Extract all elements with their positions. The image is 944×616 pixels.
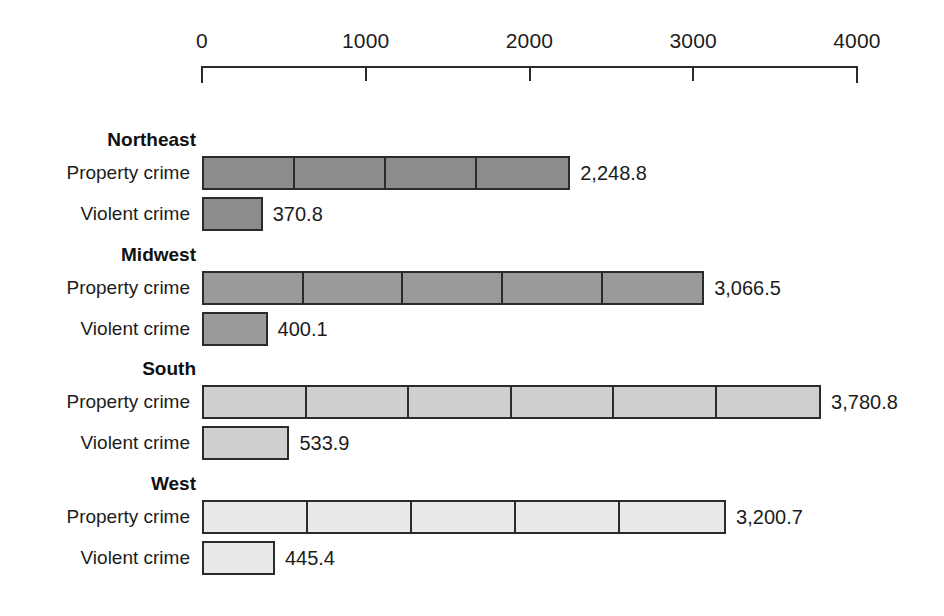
axis-tick-label-0: 0 — [196, 30, 208, 51]
bar-segment — [603, 273, 703, 303]
bar-segment — [308, 502, 412, 532]
bar-segment — [307, 387, 410, 417]
bar-row-label: Violent crime — [0, 312, 190, 346]
region-group-midwest: MidwestProperty crime3,066.5Violent crim… — [0, 244, 944, 349]
bar-value-label: 2,248.8 — [580, 156, 647, 190]
bar-segment — [620, 502, 724, 532]
crime-rate-bar-chart: 0 1000 2000 3000 4000 NortheastProperty … — [0, 0, 944, 616]
bar-segment — [204, 314, 266, 344]
region-title-west: West — [0, 473, 196, 495]
bar-segment — [204, 428, 287, 458]
region-title-midwest: Midwest — [0, 244, 196, 266]
bar-row-label: Property crime — [0, 385, 190, 419]
region-group-south: SouthProperty crime3,780.8Violent crime5… — [0, 358, 944, 463]
bar-segment — [204, 502, 308, 532]
bar-segment — [204, 387, 307, 417]
bar-segment — [204, 158, 295, 188]
bar-segment — [204, 273, 304, 303]
region-group-west: WestProperty crime3,200.7Violent crime44… — [0, 473, 944, 578]
bar-row: Violent crime400.1 — [0, 312, 944, 346]
axis-tick-1000 — [365, 66, 367, 81]
bar-south-violent[interactable] — [202, 426, 289, 460]
bar-midwest-property[interactable] — [202, 271, 704, 305]
bar-row: Violent crime445.4 — [0, 541, 944, 575]
bar-segment — [403, 273, 503, 303]
bar-west-violent[interactable] — [202, 541, 275, 575]
bar-row: Property crime3,200.7 — [0, 500, 944, 534]
bar-row: Property crime3,066.5 — [0, 271, 944, 305]
bar-value-label: 533.9 — [299, 426, 349, 460]
region-title-south: South — [0, 358, 196, 380]
bar-segment — [304, 273, 404, 303]
bar-segment — [204, 543, 273, 573]
axis-tick-4000 — [856, 66, 858, 83]
region-group-northeast: NortheastProperty crime2,248.8Violent cr… — [0, 129, 944, 234]
bar-row-label: Property crime — [0, 271, 190, 305]
bar-value-label: 445.4 — [285, 541, 335, 575]
axis-tick-label-1000: 1000 — [342, 30, 390, 51]
axis-tick-3000 — [692, 66, 694, 81]
bar-row-label: Violent crime — [0, 197, 190, 231]
bar-segment — [295, 158, 386, 188]
bar-row-label: Violent crime — [0, 426, 190, 460]
bar-row-label: Property crime — [0, 500, 190, 534]
axis-tick-label-4000: 4000 — [833, 30, 881, 51]
bar-value-label: 3,200.7 — [736, 500, 803, 534]
bar-northeast-property[interactable] — [202, 156, 570, 190]
chart-axis: 0 1000 2000 3000 4000 — [0, 0, 944, 90]
bar-segment — [516, 502, 620, 532]
axis-tick-2000 — [529, 66, 531, 81]
bar-row-label: Property crime — [0, 156, 190, 190]
bar-value-label: 3,066.5 — [714, 271, 781, 305]
bar-row-label: Violent crime — [0, 541, 190, 575]
bar-segment — [409, 387, 512, 417]
bar-south-property[interactable] — [202, 385, 821, 419]
bar-row: Property crime2,248.8 — [0, 156, 944, 190]
bar-row: Violent crime370.8 — [0, 197, 944, 231]
bar-segment — [512, 387, 615, 417]
bar-value-label: 3,780.8 — [831, 385, 898, 419]
bar-segment — [386, 158, 477, 188]
axis-tick-label-2000: 2000 — [506, 30, 554, 51]
bar-midwest-violent[interactable] — [202, 312, 268, 346]
bar-row: Violent crime533.9 — [0, 426, 944, 460]
bar-segment — [717, 387, 820, 417]
bar-west-property[interactable] — [202, 500, 726, 534]
bar-segment — [614, 387, 717, 417]
region-title-northeast: Northeast — [0, 129, 196, 151]
bar-row: Property crime3,780.8 — [0, 385, 944, 419]
bar-segment — [412, 502, 516, 532]
axis-tick-0 — [201, 66, 203, 83]
bar-northeast-violent[interactable] — [202, 197, 263, 231]
bar-value-label: 370.8 — [273, 197, 323, 231]
bar-segment — [503, 273, 603, 303]
bar-segment — [477, 158, 568, 188]
axis-tick-label-3000: 3000 — [669, 30, 717, 51]
bar-value-label: 400.1 — [278, 312, 328, 346]
bar-segment — [204, 199, 261, 229]
